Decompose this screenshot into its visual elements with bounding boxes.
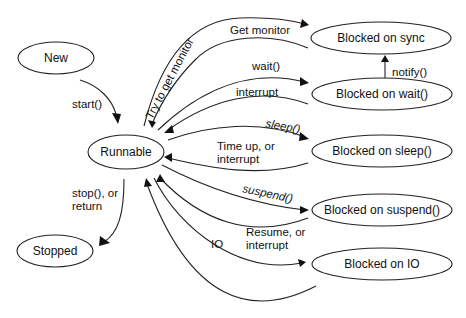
svg-text:suspend(): suspend() [242,182,295,204]
arrowhead-icon [164,153,172,162]
svg-text:Blocked on sleep(): Blocked on sleep() [332,144,431,158]
node-new: New [18,42,94,74]
edge-resume: Resume, or interrupt [156,174,308,251]
thread-state-diagram: New Runnable Stopped Blocked on sync Blo… [0,0,466,318]
edge-time-up: Time up, or interrupt [164,140,308,171]
svg-text:sleep(): sleep() [265,117,302,135]
svg-text:Get monitor: Get monitor [230,24,290,36]
arrowhead-icon [381,55,389,62]
svg-text:IO: IO [211,238,223,250]
edge-stop: stop(), or return [72,179,124,246]
svg-text:interrupt: interrupt [217,153,260,165]
node-stopped: Stopped [17,235,93,267]
node-blocked-on-wait: Blocked on wait() [312,78,452,110]
arrowhead-icon [300,77,309,86]
edge-start: start() [72,80,121,124]
svg-text:Runnable: Runnable [100,145,152,159]
node-blocked-on-io: Blocked on IO [312,248,452,280]
node-blocked-on-sync: Blocked on sync [311,22,451,54]
node-blocked-on-suspend: Blocked on suspend() [312,194,452,226]
svg-text:Blocked on suspend(): Blocked on suspend() [324,203,440,217]
arrowhead-icon [99,236,110,246]
svg-text:return: return [72,200,102,212]
node-runnable: Runnable [88,135,164,169]
arrowhead-icon [156,174,165,182]
svg-text:Time up, or: Time up, or [217,140,275,152]
arrowhead-icon [112,113,121,124]
svg-text:notify(): notify() [392,66,427,78]
node-blocked-on-sleep: Blocked on sleep() [312,135,452,167]
edge-wait: wait() [158,60,309,130]
svg-text:Blocked on wait(): Blocked on wait() [336,87,428,101]
svg-text:interrupt: interrupt [246,239,289,251]
svg-text:Blocked on IO: Blocked on IO [344,257,419,271]
svg-text:Try to get monitor: Try to get monitor [143,36,196,121]
arrowhead-icon [148,120,156,128]
edge-sleep: sleep() [168,117,309,141]
svg-text:Blocked on sync: Blocked on sync [337,31,424,45]
svg-text:Stopped: Stopped [33,244,78,258]
svg-text:Resume, or: Resume, or [246,226,306,238]
arrowhead-icon [298,259,306,267]
arrowhead-icon [299,132,309,141]
svg-text:wait(): wait() [251,60,280,72]
svg-text:stop(), or: stop(), or [72,187,118,199]
edge-notify: notify() [381,55,427,78]
arrowhead-icon [144,178,152,187]
svg-text:start(): start() [72,98,102,110]
arrowhead-icon [300,206,309,214]
svg-text:interrupt: interrupt [236,86,279,98]
arrowhead-icon [164,125,174,133]
arrowhead-icon [300,19,309,28]
edge-suspend: suspend() [162,165,309,214]
svg-text:New: New [44,51,68,65]
